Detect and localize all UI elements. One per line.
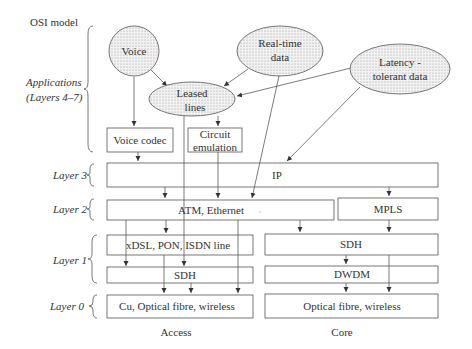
layer-label-2: Layer 2 (52, 203, 87, 215)
osi-diagram: OSI model Applications (Layers 4–7) Laye… (0, 0, 472, 349)
node-leased-label-1: Leased (176, 87, 208, 99)
node-latency-label-1: Latency - (379, 56, 421, 68)
node-voice: Voice (109, 26, 159, 76)
box-atm-ethernet: ATM, Ethernet (107, 200, 334, 220)
node-leased-label-2: lines (185, 101, 206, 113)
box-dwdm-label: DWDM (334, 268, 370, 280)
box-sdh-access: SDH (107, 267, 253, 283)
brace-layer0 (89, 295, 97, 318)
edge-realtime-leased (224, 69, 248, 86)
box-sdh-core: SDH (265, 234, 438, 255)
box-circuit-emulation: Circuit emulation (188, 128, 242, 153)
box-sdh-core-label: SDH (340, 238, 362, 250)
node-realtime-label-2: data (271, 51, 289, 63)
brace-applications (84, 26, 93, 152)
layer-label-applications: Applications (25, 76, 82, 88)
box-xdsl: xDSL, PON, ISDN line (107, 235, 253, 255)
box-optical-fibre-wireless: Optical fibre, wireless (265, 294, 438, 318)
box-circuit-label-2: emulation (193, 141, 237, 153)
layer-label-1: Layer 1 (52, 254, 87, 266)
node-leased-lines: Leased lines (149, 82, 235, 116)
layer-label-0: Layer 0 (49, 300, 84, 312)
node-latency-tolerant-data: Latency - tolerant data (350, 44, 450, 94)
box-xdsl-label: xDSL, PON, ISDN line (126, 239, 230, 251)
node-latency-label-2: tolerant data (373, 70, 428, 82)
dot-artifact (259, 211, 260, 212)
node-realtime-label-1: Real-time (258, 37, 301, 49)
box-mpls: MPLS (338, 198, 438, 220)
box-voice-codec-label: Voice codec (113, 134, 166, 146)
box-cu-label: Cu, Optical fibre, wireless (119, 300, 235, 312)
box-cu-optical-wireless: Cu, Optical fibre, wireless (107, 295, 253, 318)
node-realtime-data: Real-time data (237, 26, 323, 76)
box-sdh-access-label: SDH (174, 269, 196, 281)
edge-latency-ip (287, 87, 360, 161)
edge-voice-leased (151, 70, 167, 86)
node-voice-label: Voice (122, 45, 147, 57)
brace-layer3 (87, 164, 94, 186)
box-dwdm: DWDM (265, 266, 438, 283)
box-optical-label: Optical fibre, wireless (303, 300, 400, 312)
layer-label-3: Layer 3 (52, 169, 87, 181)
box-mpls-label: MPLS (374, 203, 403, 215)
box-circuit-label-1: Circuit (200, 128, 231, 140)
layer-sublabel-applications: (Layers 4–7) (26, 91, 83, 104)
box-voice-codec: Voice codec (107, 128, 173, 152)
column-label-access: Access (160, 326, 191, 338)
box-ip-label: IP (272, 169, 282, 181)
brace-layer1 (88, 235, 97, 283)
box-atm-label: ATM, Ethernet (178, 204, 244, 216)
brace-layer2 (87, 199, 94, 220)
diagram-title: OSI model (30, 16, 78, 28)
box-ip: IP (107, 163, 438, 187)
column-label-core: Core (331, 326, 353, 338)
